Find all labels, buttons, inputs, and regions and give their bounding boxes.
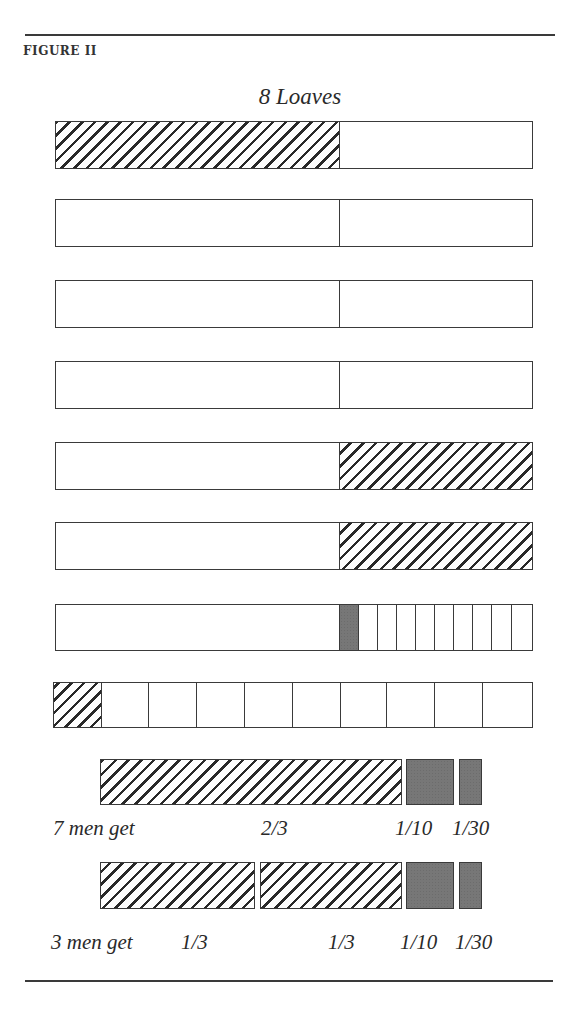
share-3-group-label: 3 men get [51, 930, 133, 955]
loaf-3-left [55, 280, 341, 328]
loaf-3-right [339, 280, 533, 328]
share-3-one-third-a [100, 862, 255, 909]
loaf-8-cell-10 [482, 682, 533, 728]
loaf-7-cell-3 [377, 604, 398, 651]
share-3-label-one-thirtieth: 1/30 [455, 930, 492, 955]
share-3-one-thirtieth [459, 862, 482, 909]
loaf-7-cell-10 [511, 604, 533, 651]
loaf-7-cell-1-dark [339, 604, 360, 651]
loaf-7-cell-9 [491, 604, 513, 651]
loaf-2-left [55, 199, 341, 247]
loaf-8-cell-5 [244, 682, 294, 728]
share-7-label-one-tenth: 1/10 [395, 816, 432, 841]
loaf-7-cell-7 [453, 604, 474, 651]
share-3-label-one-third-b: 1/3 [328, 930, 355, 955]
loaf-1-right [339, 121, 533, 169]
loaf-8-cell-1-hatched [53, 682, 103, 728]
loaf-7-cell-8 [472, 604, 493, 651]
share-7-two-thirds [100, 759, 402, 805]
share-3-label-one-third-a: 1/3 [181, 930, 208, 955]
loaf-4-left [55, 361, 341, 409]
loaf-1-left-hatched [55, 121, 341, 169]
loaf-8-cell-8 [386, 682, 436, 728]
top-rule [25, 34, 555, 36]
share-7-label-one-thirtieth: 1/30 [452, 816, 489, 841]
loaf-8-cell-7 [340, 682, 388, 728]
share-3-one-tenth [406, 862, 454, 909]
share-3-one-third-b [260, 862, 402, 909]
share-7-one-thirtieth [459, 759, 482, 805]
loaf-6-left [55, 522, 341, 570]
loaf-8-cell-4 [196, 682, 246, 728]
loaf-7-cell-4 [396, 604, 417, 651]
figure-label: FIGURE II [23, 44, 97, 58]
loaf-5-right-hatched [339, 442, 533, 490]
loaf-8-cell-3 [148, 682, 198, 728]
loaf-7-left [55, 604, 341, 651]
loaf-2-right [339, 199, 533, 247]
loaf-6-right-hatched [339, 522, 533, 570]
share-7-one-tenth [406, 759, 454, 805]
share-7-group-label: 7 men get [53, 816, 135, 841]
loaf-7-cell-5 [415, 604, 436, 651]
loaf-8-cell-2 [101, 682, 150, 728]
loaf-5-left [55, 442, 341, 490]
share-7-label-two-thirds: 2/3 [261, 816, 288, 841]
figure-title: 8 Loaves [0, 84, 572, 110]
bottom-rule [25, 980, 553, 982]
loaf-8-cell-9 [434, 682, 484, 728]
loaf-7-cell-6 [434, 604, 455, 651]
loaf-7-cell-2 [358, 604, 379, 651]
loaf-8-cell-6 [292, 682, 342, 728]
loaf-4-right [339, 361, 533, 409]
share-3-label-one-tenth: 1/10 [400, 930, 437, 955]
